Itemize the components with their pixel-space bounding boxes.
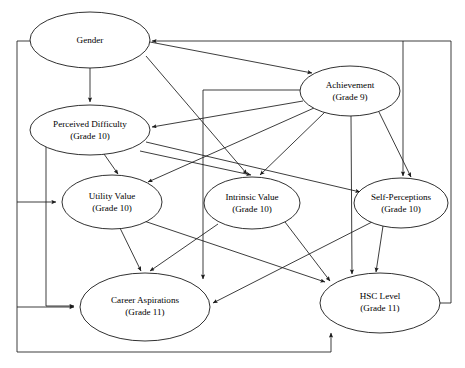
path-diagram: Gender Achievement (Grade 9) Perceived D… xyxy=(0,0,465,368)
node-utility-value-label-line2: (Grade 10) xyxy=(92,203,132,213)
edge-gender-to-achievement xyxy=(150,42,312,73)
node-hsc-level[interactable]: HSC Level (Grade 11) xyxy=(320,273,440,333)
node-perceived-difficulty-label-line1: Perceived Difficulty xyxy=(53,119,127,129)
edge-gender-to-intrinsic-value xyxy=(146,56,247,174)
edge-hsc-level-to-gender xyxy=(152,41,451,303)
node-intrinsic-value[interactable]: Intrinsic Value (Grade 10) xyxy=(204,177,300,229)
node-gender[interactable]: Gender xyxy=(30,12,150,68)
path-diagram-canvas: Gender Achievement (Grade 9) Perceived D… xyxy=(0,0,465,368)
edge-utility-value-to-hsc-level xyxy=(144,221,325,282)
node-achievement[interactable]: Achievement (Grade 9) xyxy=(300,66,400,116)
edge-perceived-difficulty-to-career-aspirations xyxy=(30,128,74,306)
edge-achievement-to-self-perceptions xyxy=(379,112,411,177)
edge-intrinsic-value-to-hsc-level xyxy=(285,222,330,281)
node-perceived-difficulty-label-line2: (Grade 10) xyxy=(70,131,110,141)
node-gender-label: Gender xyxy=(77,35,104,45)
edge-perceived-difficulty-to-utility-value xyxy=(104,154,118,174)
node-career-aspirations[interactable]: Career Aspirations (Grade 11) xyxy=(80,273,210,341)
node-intrinsic-value-label-line2: (Grade 10) xyxy=(232,204,272,214)
node-self-perceptions-label-line2: (Grade 10) xyxy=(381,204,421,214)
node-career-aspirations-label-line2: (Grade 11) xyxy=(125,307,164,317)
node-utility-value[interactable]: Utility Value (Grade 10) xyxy=(62,175,162,229)
edge-intrinsic-value-to-career-aspirations xyxy=(150,224,218,271)
node-self-perceptions[interactable]: Self-Perceptions (Grade 10) xyxy=(354,178,448,228)
node-hsc-level-label-line1: HSC Level xyxy=(360,291,401,301)
edge-achievement-to-hsc-level xyxy=(351,116,352,274)
node-achievement-label-line2: (Grade 9) xyxy=(332,92,367,102)
node-perceived-difficulty[interactable]: Perceived Difficulty (Grade 10) xyxy=(30,105,150,155)
edge-achievement-to-intrinsic-value xyxy=(260,112,325,175)
node-utility-value-label-line1: Utility Value xyxy=(89,191,136,201)
node-career-aspirations-label-line1: Career Aspirations xyxy=(111,295,179,305)
edge-self-perceptions-to-hsc-level xyxy=(376,226,383,272)
edge-utility-value-to-career-aspirations xyxy=(120,228,141,271)
edge-gender-to-career-aspirations xyxy=(17,202,74,307)
node-hsc-level-label-line2: (Grade 11) xyxy=(360,303,399,313)
node-self-perceptions-label-line1: Self-Perceptions xyxy=(371,192,432,202)
node-intrinsic-value-label-line1: Intrinsic Value xyxy=(225,192,278,202)
node-achievement-label-line1: Achievement xyxy=(326,80,375,90)
